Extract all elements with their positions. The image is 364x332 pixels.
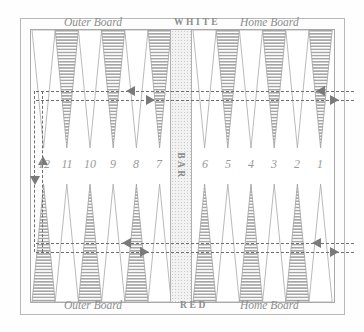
point-top-7 (148, 30, 171, 148)
point-top-4 (239, 30, 262, 148)
point-top-2 (286, 30, 309, 148)
point-number-11: 11 (57, 157, 77, 172)
point-number-7: 7 (149, 157, 169, 172)
point-number-1: 1 (310, 157, 330, 172)
arrow-top-mid-right (146, 95, 155, 105)
point-number-10: 10 (80, 157, 100, 172)
point-number-12: 12 (34, 157, 54, 172)
point-top-6 (193, 30, 216, 148)
point-top-3 (263, 30, 286, 148)
arrow-bottom-mid-left (122, 238, 131, 248)
top-points-outer (32, 30, 171, 148)
label-top-outer-board: Outer Board (64, 16, 122, 28)
point-top-9 (102, 30, 125, 148)
route-line-top-upper (36, 91, 354, 92)
route-line-bottom-upper (36, 243, 354, 244)
label-top-home-board: Home Board (240, 16, 299, 28)
point-number-6: 6 (195, 157, 215, 172)
label-bottom-player-red: RED (180, 300, 208, 310)
point-number-4: 4 (241, 157, 261, 172)
arrow-bottom-right-left (312, 238, 321, 248)
route-line-bottom-lower (36, 252, 354, 253)
backgammon-diagram: BAR 12 11 10 9 8 7 6 5 (0, 0, 364, 332)
label-bottom-outer-board: Outer Board (64, 299, 122, 311)
arrow-top-mid-left (126, 86, 135, 96)
label-bottom-home-board: Home Board (240, 299, 299, 311)
point-number-8: 8 (126, 157, 146, 172)
point-top-11 (55, 30, 78, 148)
point-number-2: 2 (287, 157, 307, 172)
point-number-row: 12 11 10 9 8 7 6 5 4 3 2 1 (31, 157, 334, 175)
point-top-12 (32, 30, 55, 148)
point-number-3: 3 (264, 157, 284, 172)
arrow-bottom-mid-right (140, 247, 149, 257)
point-top-5 (216, 30, 239, 148)
point-number-9: 9 (103, 157, 123, 172)
label-top-player-white: WHITE (174, 17, 220, 27)
top-points-home (193, 30, 332, 148)
arrow-top-right-right (330, 95, 339, 105)
point-number-5: 5 (218, 157, 238, 172)
point-top-10 (78, 30, 101, 148)
route-line-top-lower (36, 100, 354, 101)
arrow-bottom-right-right (330, 247, 339, 257)
arrow-top-right-left (316, 86, 325, 96)
arrow-left-down (30, 176, 40, 185)
